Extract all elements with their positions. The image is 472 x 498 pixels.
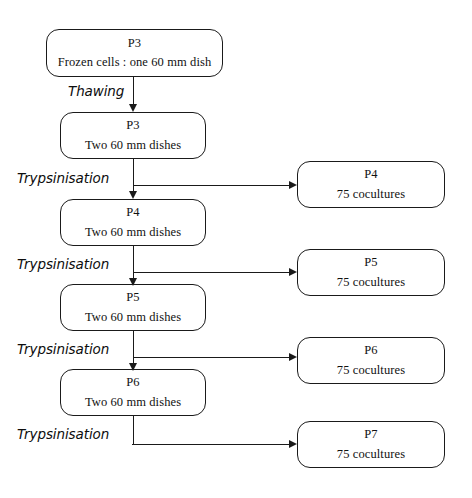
step-label-thawing: Thawing (68, 83, 124, 99)
connector-trypsin1-vertical (133, 159, 134, 192)
step-label-trypsinisation-1: Trypsinisation (17, 170, 109, 186)
node-p4-cocultures: P4 75 cocultures (297, 161, 445, 208)
connector-trypsin2-horizontal (133, 272, 290, 273)
connector-trypsin3-horizontal (133, 357, 290, 358)
node-passage-label: P3 (128, 36, 141, 52)
connector-trypsin1-arrowhead-right (289, 181, 297, 189)
node-p6-dishes: P6 Two 60 mm dishes (60, 369, 206, 416)
node-p5-dishes: P5 Two 60 mm dishes (60, 284, 206, 331)
node-passage-label: P4 (126, 205, 139, 221)
node-passage-label: P3 (126, 118, 139, 134)
node-detail-label: Frozen cells : one 60 mm dish (58, 54, 212, 70)
step-label-trypsinisation-4: Trypsinisation (17, 426, 109, 442)
node-passage-label: P5 (364, 255, 377, 271)
node-detail-label: 75 cocultures (337, 362, 405, 378)
connector-trypsin3-vertical (133, 331, 134, 364)
connector-trypsin2-arrowhead-down (129, 278, 137, 286)
step-label-trypsinisation-2: Trypsinisation (17, 256, 109, 272)
node-detail-label: Two 60 mm dishes (85, 394, 181, 410)
connector-thawing-vertical (133, 77, 134, 105)
node-detail-label: Two 60 mm dishes (85, 224, 181, 240)
node-p3-dishes: P3 Two 60 mm dishes (60, 112, 206, 159)
node-passage-label: P4 (364, 167, 377, 183)
node-detail-label: 75 cocultures (337, 186, 405, 202)
node-detail-label: Two 60 mm dishes (85, 137, 181, 153)
node-detail-label: 75 cocultures (337, 274, 405, 290)
connector-trypsin1-horizontal (133, 185, 290, 186)
node-p6-cocultures: P6 75 cocultures (297, 337, 445, 384)
node-passage-label: P6 (364, 343, 377, 359)
node-passage-label: P6 (126, 375, 139, 391)
connector-trypsin1-arrowhead-down (129, 191, 137, 199)
connector-trypsin3-arrowhead-right (289, 353, 297, 361)
node-p3-frozen: P3 Frozen cells : one 60 mm dish (46, 29, 223, 77)
connector-trypsin2-vertical (133, 246, 134, 279)
step-label-trypsinisation-3: Trypsinisation (17, 341, 109, 357)
node-detail-label: 75 cocultures (337, 446, 405, 462)
node-p4-dishes: P4 Two 60 mm dishes (60, 199, 206, 246)
node-passage-label: P5 (126, 290, 139, 306)
connector-trypsin3-arrowhead-down (129, 363, 137, 371)
connector-trypsin4-vertical (133, 416, 134, 445)
node-detail-label: Two 60 mm dishes (85, 309, 181, 325)
node-p5-cocultures: P5 75 cocultures (297, 249, 445, 296)
connector-trypsin2-arrowhead-right (289, 268, 297, 276)
connector-trypsin4-arrowhead-right (289, 440, 297, 448)
connector-thawing-arrowhead (129, 104, 137, 112)
node-passage-label: P7 (364, 427, 377, 443)
flowchart-canvas: P3 Frozen cells : one 60 mm dish P3 Two … (0, 0, 472, 498)
node-p7-cocultures: P7 75 cocultures (297, 421, 445, 468)
connector-trypsin4-horizontal (132, 444, 290, 445)
